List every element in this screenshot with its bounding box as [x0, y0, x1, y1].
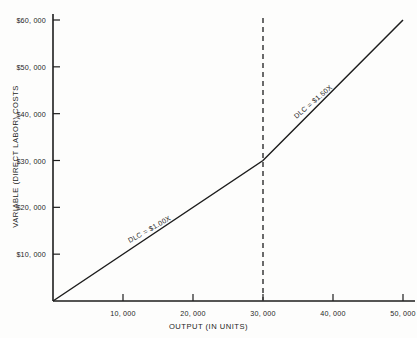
x-tick-label: 10, 000 [110, 309, 135, 318]
x-tick-label: 30, 000 [250, 309, 275, 318]
y-tick-label: $30, 000 [0, 156, 46, 165]
x-tick-label: 20, 000 [180, 309, 205, 318]
y-axis-title: VARIABLE (DIRECT LABOR) COSTS [11, 57, 20, 257]
y-tick-label: $60, 000 [0, 16, 46, 25]
y-tick-label: $50, 000 [0, 62, 46, 71]
x-axis-title: OUTPUT (IN UNITS) [0, 322, 417, 331]
chart-figure: $10, 000$20, 000$30, 000$40, 000$50, 000… [0, 0, 417, 338]
y-tick-label: $40, 000 [0, 109, 46, 118]
y-axis-ticks [53, 20, 60, 254]
chart-plot-area [0, 0, 417, 338]
cost-line-series [53, 20, 403, 301]
x-tick-label: 50, 000 [390, 309, 415, 318]
y-tick-label: $10, 000 [0, 250, 46, 259]
y-tick-label: $20, 000 [0, 203, 46, 212]
x-tick-label: 40, 000 [320, 309, 345, 318]
